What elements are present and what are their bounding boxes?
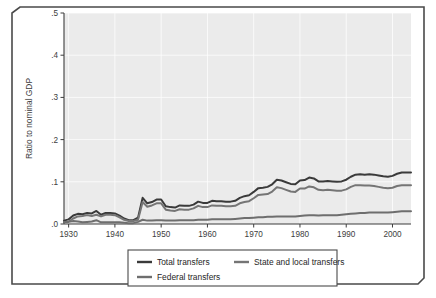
x-tick-label: 1950 <box>152 230 171 239</box>
x-tick-label: 1970 <box>245 230 264 239</box>
figure-root: .0.1.2.3.4.51930194019501960197019801990… <box>0 0 436 298</box>
y-tick-label: .1 <box>51 178 58 187</box>
y-tick-label: .4 <box>51 51 58 60</box>
legend-label: State and local transfers <box>254 257 344 267</box>
x-tick-label: 1930 <box>60 230 79 239</box>
y-tick-label: .3 <box>51 93 58 102</box>
x-tick-label: 1990 <box>337 230 356 239</box>
x-tick-label: 2000 <box>383 230 402 239</box>
legend-label: Total transfers <box>157 257 210 267</box>
x-tick-label: 1940 <box>106 230 125 239</box>
y-axis-title-text: Ratio to nominal GDP <box>24 78 34 159</box>
plot-area <box>64 13 411 224</box>
y-tick-label: .0 <box>51 220 58 229</box>
y-axis-title: Ratio to nominal GDP <box>24 78 34 159</box>
x-tick-label: 1960 <box>198 230 217 239</box>
plot-background <box>64 13 411 224</box>
legend-label: Federal transfers <box>157 272 220 282</box>
x-tick-label: 1980 <box>291 230 310 239</box>
y-tick-label: .2 <box>51 136 58 145</box>
chart-legend[interactable]: Total transfersState and local transfers… <box>128 250 344 286</box>
y-tick-label: .5 <box>51 9 58 18</box>
line-chart: .0.1.2.3.4.51930194019501960197019801990… <box>0 0 436 298</box>
